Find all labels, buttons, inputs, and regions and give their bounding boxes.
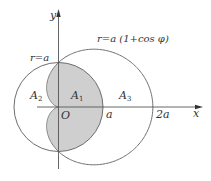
y-axis-label: y — [49, 9, 57, 22]
x-axis-label: x — [193, 107, 200, 120]
cardioid-equation-label: r=a (1+cos φ) — [97, 33, 169, 44]
a-tick-label: a — [106, 108, 113, 121]
polar-region-diagram: y x O a 2a r=a r=a (1+cos φ) A1 A2 A3 — [0, 0, 211, 181]
circle-equation-label: r=a — [30, 52, 49, 63]
region-a2-label: A2 — [29, 89, 42, 103]
y-axis-arrow-icon — [56, 9, 60, 17]
region-a3-label: A3 — [118, 89, 131, 103]
origin-label: O — [61, 109, 70, 122]
two-a-tick-label: 2a — [155, 108, 170, 121]
